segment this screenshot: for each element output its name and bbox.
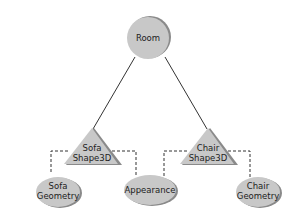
sofa-geometry-line2: Geometry — [37, 191, 79, 201]
node-chair-geometry: Chair Geometry — [236, 177, 282, 208]
node-room: Room — [127, 16, 171, 59]
sofa-shape-line1: Sofa — [83, 143, 102, 153]
edge-room-chair — [165, 57, 207, 129]
chair-shape-line1: Chair — [197, 143, 220, 153]
node-sofa-geometry: Sofa Geometry — [36, 177, 82, 208]
chair-shape-line2: Shape3D — [189, 153, 228, 163]
sofa-shape-line2: Shape3D — [73, 153, 112, 163]
node-chair-shape3d: Chair Shape3D — [180, 128, 238, 165]
node-appearance: Appearance — [124, 175, 178, 206]
appearance-label: Appearance — [124, 185, 175, 195]
scene-graph-diagram: Room Sofa Shape3D Chair Shape3D Sofa Geo… — [0, 0, 297, 215]
room-label: Room — [136, 33, 160, 43]
chair-geometry-line1: Chair — [247, 181, 270, 191]
sofa-geometry-line1: Sofa — [49, 181, 68, 191]
node-sofa-shape3d: Sofa Shape3D — [64, 128, 122, 165]
edge-room-sofa — [93, 57, 135, 129]
chair-geometry-line2: Geometry — [237, 191, 279, 201]
